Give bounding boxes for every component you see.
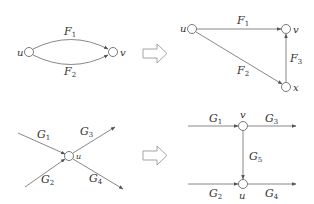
node-v-label: v	[293, 24, 299, 35]
edge-label-G: G4	[265, 187, 279, 201]
edge-label-G: G3	[80, 125, 93, 139]
panel-top-right: u v x F1 F2 F3	[180, 14, 302, 93]
edge-F1	[33, 40, 108, 50]
edge-label-F: F1	[63, 25, 76, 39]
edge-label-F: F2	[236, 64, 249, 78]
edge-label-G: G2	[41, 173, 54, 187]
edge-label-G: G1	[209, 112, 222, 126]
node-u-label: u	[17, 47, 23, 58]
node-u	[239, 180, 248, 189]
node-u	[65, 152, 74, 161]
panel-bottom-left: u G1 G3 G2 G4	[18, 125, 123, 189]
node-v	[109, 48, 118, 57]
node-x	[282, 83, 291, 92]
panel-top-left: u v F1 F2	[17, 25, 126, 79]
panel-bottom-right: v u G1 G3 G5 G2 G4	[188, 109, 296, 201]
edge-label-G: G1	[37, 128, 50, 142]
transform-arrow-icon	[143, 146, 167, 165]
edge-label-F: F3	[289, 52, 302, 66]
node-u	[188, 25, 197, 34]
node-v-label: v	[240, 109, 246, 120]
diagram-canvas: u v F1 F2 u v x F1 F2 F3 u G1 G3 G2 G4	[0, 0, 314, 204]
node-v	[282, 25, 291, 34]
node-v	[239, 122, 248, 131]
edge-label-G: G2	[209, 187, 222, 201]
node-u-label: u	[239, 190, 245, 201]
edge-label-F: F1	[236, 14, 249, 28]
edge-label-G: G5	[249, 150, 262, 164]
node-x-label: x	[293, 82, 299, 93]
node-u-label: u	[180, 23, 186, 34]
edge-label-G: G3	[265, 112, 278, 126]
edge-F2	[33, 55, 108, 65]
node-u	[25, 48, 34, 57]
node-v-label: v	[120, 47, 126, 58]
edge-label-G: G4	[89, 172, 103, 186]
node-u-label: u	[76, 152, 81, 161]
edge-label-F: F2	[63, 65, 76, 79]
transform-arrow-icon	[143, 44, 167, 63]
